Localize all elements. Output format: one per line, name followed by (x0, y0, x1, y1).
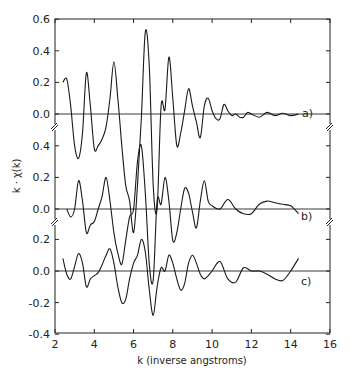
panel-label-b: b) (301, 210, 312, 223)
panel-label-c: c) (301, 275, 311, 288)
y-tick-label: 0.0 (33, 265, 51, 278)
y-tick-label: -0.2 (29, 297, 50, 310)
y-tick-label: 0.2 (33, 233, 51, 246)
axis-break-right-1 (326, 123, 334, 131)
x-tick-label: 8 (169, 338, 176, 351)
curve-b (67, 144, 299, 284)
x-tick-label: 2 (52, 338, 59, 351)
y-tick-label: 0.4 (33, 45, 51, 58)
axis-break-left-2 (51, 218, 59, 226)
y-tick-label: -0.4 (29, 328, 50, 341)
y-tick-label: 0.2 (33, 76, 51, 89)
axis-break-right-2 (326, 218, 334, 226)
y-tick-label: 0.4 (33, 140, 51, 153)
x-tick-label: 6 (130, 338, 137, 351)
curve-c (63, 239, 299, 315)
y-tick-label: 0.2 (33, 171, 51, 184)
x-axis-title: k (inverse angstroms) (137, 355, 247, 366)
plot-frame (55, 19, 330, 333)
panel-label-a: a) (302, 107, 313, 120)
x-tick-label: 14 (284, 338, 298, 351)
x-tick-label: 10 (205, 338, 219, 351)
x-tick-label: 16 (323, 338, 337, 351)
axis-ticks: 2468101214160.60.40.20.00.40.20.00.20.0-… (29, 13, 337, 351)
exafs-chart: 2468101214160.60.40.20.00.40.20.00.20.0-… (0, 0, 349, 376)
y-axis-title: k · χ(k) (11, 159, 22, 194)
x-tick-label: 4 (91, 338, 98, 351)
x-tick-label: 12 (244, 338, 258, 351)
y-tick-label: 0.6 (33, 13, 51, 26)
curves (63, 30, 299, 316)
y-tick-label: 0.0 (33, 203, 51, 216)
y-tick-label: 0.0 (33, 108, 51, 121)
axis-break-left-1 (51, 123, 59, 131)
